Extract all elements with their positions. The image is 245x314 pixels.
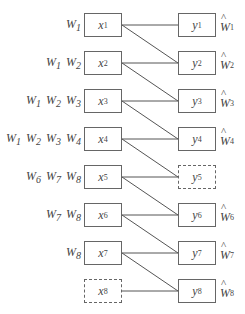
edge-layer	[0, 0, 245, 314]
right-node-y2: y2	[178, 51, 216, 75]
weight-label-W8: W8	[66, 169, 81, 185]
right-node-y4: y4	[178, 127, 216, 151]
left-node-x6: x6	[84, 203, 122, 227]
weight-label-W2: W2	[46, 93, 61, 109]
left-weight-labels-row-3: W1W2W3	[26, 89, 81, 113]
weight-label-W1: W1	[46, 55, 61, 71]
right-node-y7: y7	[178, 241, 216, 265]
weight-label-W8: W8	[66, 207, 81, 223]
left-node-x7: x7	[84, 241, 122, 265]
edge-x7-y8	[122, 253, 178, 291]
weight-label-W7: W7	[46, 207, 61, 223]
edge-x6-y7	[122, 215, 178, 253]
edge-x4-y5	[122, 139, 178, 177]
right-node-y5: y5	[178, 165, 216, 189]
left-weight-labels-row-1: W1	[66, 13, 81, 37]
estimated-weight-label-row-6: W6	[220, 205, 234, 229]
edge-x2-y3	[122, 63, 178, 101]
left-weight-labels-row-7: W8	[66, 241, 81, 265]
weight-label-W4: W4	[66, 131, 81, 147]
right-node-y6: y6	[178, 203, 216, 227]
left-weight-labels-row-6: W7W8	[46, 203, 81, 227]
left-node-x1: x1	[84, 13, 122, 37]
estimated-weight-label-row-3: W3	[220, 91, 234, 115]
edge-x1-y2	[122, 25, 178, 63]
edge-x3-y4	[122, 101, 178, 139]
weight-label-W1: W1	[26, 93, 41, 109]
weight-label-W2: W2	[26, 131, 41, 147]
left-node-x4: x4	[84, 127, 122, 151]
weight-label-W1: W1	[6, 131, 21, 147]
weight-label-W2: W2	[66, 55, 81, 71]
encoder-decoder-diagram: x1W1x2W1W2x3W1W2W3x4W1W2W3W4x5W6W7W8x6W7…	[0, 0, 245, 314]
estimated-weight-label-row-2: W2	[220, 53, 234, 77]
weight-label-W1: W1	[66, 17, 81, 33]
estimated-weight-label-row-7: W7	[220, 243, 234, 267]
left-weight-labels-row-4: W1W2W3W4	[6, 127, 81, 151]
estimated-weight-label-row-1: W1	[220, 15, 234, 39]
right-node-y8: y8	[178, 279, 216, 303]
weight-label-W6: W6	[26, 169, 41, 185]
estimated-weight-label-row-4: W4	[220, 129, 234, 153]
right-node-y3: y3	[178, 89, 216, 113]
left-weight-labels-row-2: W1W2	[46, 51, 81, 75]
left-node-x5: x5	[84, 165, 122, 189]
left-node-x2: x2	[84, 51, 122, 75]
left-weight-labels-row-5: W6W7W8	[26, 165, 81, 189]
edge-x5-y6	[122, 177, 178, 215]
weight-label-W3: W3	[66, 93, 81, 109]
left-node-x8: x8	[84, 279, 122, 303]
right-node-y1: y1	[178, 13, 216, 37]
estimated-weight-label-row-8: W8	[220, 281, 234, 305]
left-node-x3: x3	[84, 89, 122, 113]
weight-label-W8: W8	[66, 245, 81, 261]
weight-label-W7: W7	[46, 169, 61, 185]
weight-label-W3: W3	[46, 131, 61, 147]
